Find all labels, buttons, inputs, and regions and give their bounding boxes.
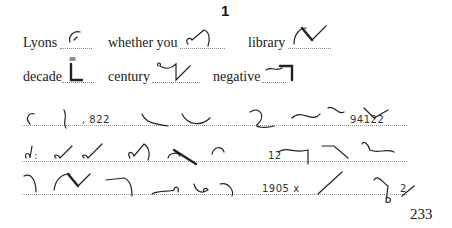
passage-colon: :	[34, 150, 38, 161]
shorthand-outline-negative	[264, 64, 294, 82]
vocab-word-century: century	[108, 70, 150, 84]
vocab-word-lyons: Lyons	[23, 36, 57, 50]
dotted-blank	[62, 82, 94, 83]
vocab-word-library: library	[248, 36, 285, 50]
dotted-blank	[152, 82, 200, 83]
dotted-blank	[180, 48, 225, 49]
vocab-word-decade: decade	[23, 70, 62, 84]
exercise-number: 1	[221, 2, 229, 19]
dotted-blank	[288, 48, 331, 49]
shorthand-outline-century	[154, 62, 194, 82]
passage-number-1905x: 1905 x	[262, 183, 300, 194]
shorthand-passage-line-2	[22, 136, 412, 166]
vocab-word-whether-you: whether you	[108, 36, 178, 50]
dotted-blank	[262, 82, 286, 83]
dotted-blank	[60, 48, 92, 49]
passage-number-12: 12	[268, 150, 282, 161]
passage-number-94122: 94122	[350, 114, 384, 125]
shorthand-outline-library	[292, 24, 334, 46]
shorthand-passage-line-3	[22, 168, 412, 210]
vocab-word-negative: negative	[213, 70, 260, 84]
passage-number-2: 2	[400, 183, 407, 194]
passage-number-822: , 822	[82, 114, 110, 125]
page-number: 233	[410, 206, 433, 223]
shorthand-outline-lyons	[66, 30, 86, 46]
shorthand-outline-decade	[66, 56, 86, 82]
shorthand-outline-whether-you	[184, 28, 214, 48]
